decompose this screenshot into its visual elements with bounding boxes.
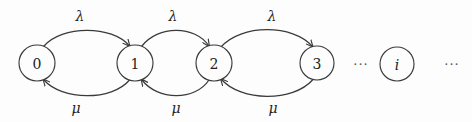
state-label-0: 0 [33, 56, 42, 72]
rate-label-lambda-1-2: λ [168, 8, 178, 24]
ellipsis-left: ··· [353, 57, 368, 72]
forward-edge-group [44, 30, 313, 47]
rate-label-mu-3-2: μ [268, 100, 277, 116]
edge-1-to-2-arc [142, 30, 210, 46]
state-node-0[interactable]: 0 [19, 45, 55, 81]
ellipsis-right: ··· [444, 57, 459, 72]
birth-death-chain-diagram: 0 1 2 3 i λ λ λ μ μ μ ··· ··· [0, 0, 472, 122]
state-node-1[interactable]: 1 [117, 45, 153, 81]
state-label-i: i [395, 57, 399, 73]
edge-3-to-2-arc [221, 79, 313, 96]
edge-2-to-1-arc [142, 80, 210, 96]
rate-label-mu-1-0: μ [71, 100, 80, 116]
rate-label-lambda-0-1: λ [75, 8, 85, 24]
diagram-canvas: 0 1 2 3 i λ λ λ μ μ μ ··· ··· [0, 0, 472, 122]
edge-1-to-0-arc [44, 80, 130, 96]
backward-edge-group [44, 79, 313, 96]
state-label-3: 3 [313, 56, 322, 72]
state-node-2[interactable]: 2 [196, 45, 232, 81]
edge-2-to-3-arc [221, 30, 313, 47]
state-label-2: 2 [210, 56, 219, 72]
rate-label-lambda-2-3: λ [267, 8, 277, 24]
edge-0-to-1-arc [44, 30, 130, 46]
rate-label-mu-2-1: μ [171, 100, 180, 116]
state-node-i[interactable]: i [380, 47, 414, 81]
state-label-1: 1 [131, 56, 140, 72]
state-node-3[interactable]: 3 [300, 46, 334, 80]
